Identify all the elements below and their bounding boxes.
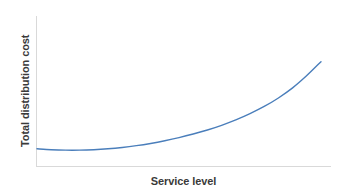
x-axis-title: Service level bbox=[36, 175, 331, 187]
chart-plot-area bbox=[0, 0, 351, 193]
y-axis-title: Total distribution cost bbox=[16, 7, 34, 147]
chart-figure: Total distribution cost Service level bbox=[0, 0, 351, 193]
chart-background bbox=[0, 0, 351, 193]
